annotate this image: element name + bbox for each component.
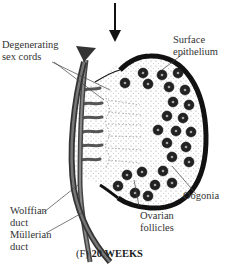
label-degenerating-sex-cords-2: sex cords: [2, 51, 41, 62]
label-mullerian-duct: Müllerian: [10, 229, 51, 240]
label-degenerating-sex-cords: Degenerating: [2, 39, 59, 50]
figure-caption: (F) 20 WEEKS: [76, 248, 143, 259]
label-oogonia: Oogonia: [183, 190, 219, 201]
label-ovarian-follicles: Ovarian: [140, 210, 174, 221]
label-mullerian-duct-2: duct: [10, 241, 28, 252]
panel-letter: (F): [76, 248, 89, 259]
label-surface-epithelium-2: epithelium: [173, 46, 218, 57]
label-wolffian-duct-2: duct: [10, 217, 28, 228]
stage-label: 20 WEEKS: [91, 248, 142, 259]
label-ovarian-follicles-2: follicles: [140, 222, 174, 233]
label-wolffian-duct: Wolffian: [10, 205, 47, 216]
down-arrow-icon: [109, 3, 121, 42]
label-surface-epithelium: Surface: [173, 34, 205, 45]
